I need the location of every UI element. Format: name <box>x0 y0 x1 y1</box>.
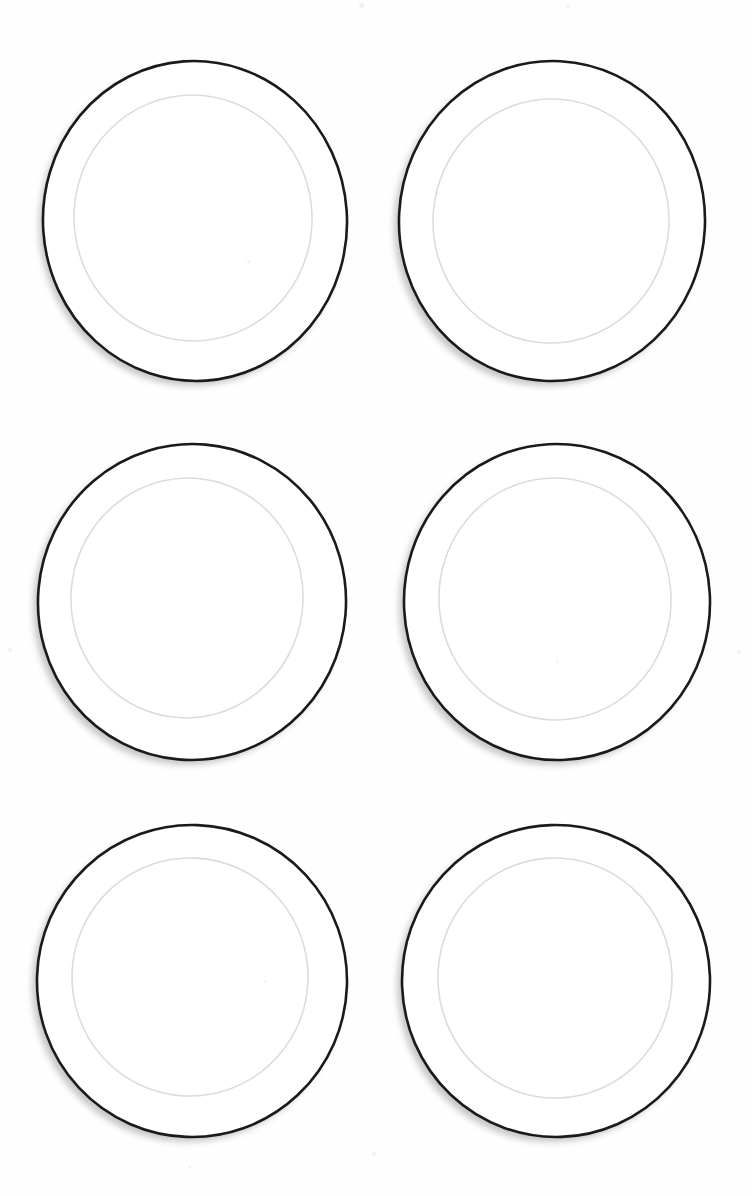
plate-rim <box>25 431 359 773</box>
dinner-plate <box>38 58 354 388</box>
plate-graphic <box>396 822 716 1144</box>
dinner-plate <box>396 822 716 1144</box>
paper-speck <box>566 4 570 8</box>
dinner-plate <box>394 58 710 388</box>
dinner-plate <box>32 440 352 768</box>
plates-canvas <box>0 0 752 1196</box>
paper-speck <box>737 650 741 654</box>
paper-speck <box>359 3 364 8</box>
paper-speck <box>188 1166 191 1169</box>
dinner-plate <box>32 822 352 1144</box>
plate-graphic <box>38 58 354 388</box>
paper-speck <box>372 1152 376 1156</box>
plate-rim <box>32 51 358 391</box>
dinner-plate <box>398 440 716 768</box>
plate-graphic <box>394 58 710 388</box>
plate-graphic <box>32 822 352 1144</box>
paper-speck <box>8 648 12 652</box>
plate-graphic <box>398 440 716 768</box>
plate-graphic <box>32 440 352 768</box>
